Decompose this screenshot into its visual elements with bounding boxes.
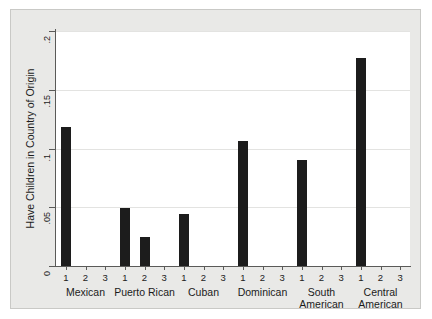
x-tick-label: 1 xyxy=(358,272,363,283)
y-tick-label: 0 xyxy=(42,271,52,276)
x-tick-mark xyxy=(204,266,205,270)
x-axis-group-label: CentralAmerican xyxy=(358,286,402,310)
x-axis-group-label-line: Central xyxy=(358,286,402,298)
x-axis-group-label-line: South xyxy=(299,286,343,298)
x-tick-mark xyxy=(66,266,67,270)
bar xyxy=(297,160,307,266)
x-tick-mark xyxy=(184,266,185,270)
x-tick-mark xyxy=(125,266,126,270)
x-tick-label: 1 xyxy=(122,272,127,283)
x-tick-mark xyxy=(263,266,264,270)
x-tick-mark xyxy=(164,266,165,270)
x-axis-group-label: Cuban xyxy=(188,286,219,298)
x-axis-group-label: Mexican xyxy=(66,286,105,298)
y-axis-line xyxy=(55,29,56,267)
y-tick-label: .15 xyxy=(42,95,52,108)
x-tick-mark xyxy=(145,266,146,270)
y-tick-mark xyxy=(49,266,55,267)
x-axis-line xyxy=(55,266,411,267)
x-tick-label: 1 xyxy=(63,272,68,283)
x-tick-mark xyxy=(322,266,323,270)
x-axis-group-label-line: American xyxy=(358,298,402,310)
y-axis-title: Have Children in Country of Origin xyxy=(24,31,36,266)
y-tick-label: .1 xyxy=(42,154,52,162)
bar xyxy=(120,208,130,266)
x-tick-label: 3 xyxy=(221,272,226,283)
x-tick-label: 1 xyxy=(299,272,304,283)
bar xyxy=(179,214,189,266)
y-tick-mark xyxy=(49,90,55,91)
x-axis-group-label-line: American xyxy=(299,298,343,310)
x-tick-mark xyxy=(341,266,342,270)
x-tick-label: 2 xyxy=(142,272,147,283)
x-tick-label: 1 xyxy=(181,272,186,283)
bar xyxy=(238,141,248,266)
x-tick-mark xyxy=(86,266,87,270)
x-tick-mark xyxy=(282,266,283,270)
x-tick-mark xyxy=(243,266,244,270)
x-tick-label: 2 xyxy=(83,272,88,283)
x-tick-mark xyxy=(361,266,362,270)
bar xyxy=(61,127,71,266)
x-tick-mark xyxy=(381,266,382,270)
x-tick-label: 3 xyxy=(339,272,344,283)
x-tick-mark xyxy=(302,266,303,270)
bar xyxy=(140,237,150,266)
x-axis-group-label: Dominican xyxy=(238,286,288,298)
figure: 0.05.1.15.2 Have Children in Country of … xyxy=(0,0,432,319)
bar xyxy=(356,58,366,266)
x-tick-label: 3 xyxy=(103,272,108,283)
x-tick-label: 2 xyxy=(378,272,383,283)
x-tick-label: 2 xyxy=(201,272,206,283)
x-tick-mark xyxy=(105,266,106,270)
x-tick-mark xyxy=(400,266,401,270)
x-axis-group-label: Puerto Rican xyxy=(114,286,175,298)
plot-region xyxy=(56,31,410,266)
y-tick-mark xyxy=(49,149,55,150)
x-tick-label: 3 xyxy=(280,272,285,283)
y-tick-label: .2 xyxy=(42,36,52,44)
gridline xyxy=(56,31,410,32)
y-tick-mark xyxy=(49,207,55,208)
x-tick-label: 3 xyxy=(398,272,403,283)
x-tick-mark xyxy=(223,266,224,270)
x-tick-label: 1 xyxy=(240,272,245,283)
x-tick-label: 3 xyxy=(162,272,167,283)
y-tick-label: .05 xyxy=(42,212,52,225)
x-axis-group-label: SouthAmerican xyxy=(299,286,343,310)
x-tick-label: 2 xyxy=(319,272,324,283)
y-tick-mark xyxy=(49,31,55,32)
x-tick-label: 2 xyxy=(260,272,265,283)
